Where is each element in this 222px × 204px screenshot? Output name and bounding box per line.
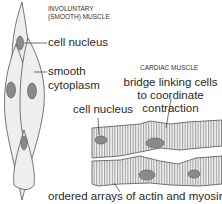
cardiac-nucleus-label: cell nucleus	[73, 104, 133, 116]
bridge-label-line3: contraction	[119, 103, 222, 115]
smooth-muscle-title-line1: INVOLUNTARY	[48, 6, 94, 13]
cardiac-muscle-title: CARDIAC MUSCLE	[140, 65, 198, 72]
smooth-muscle-title-line2: (SMOOTH) MUSCLE	[48, 14, 110, 21]
smooth-cytoplasm-label-line1: smooth	[48, 66, 86, 78]
actin-myosin-label: ordered arrays of actin and myosin	[48, 191, 222, 203]
smooth-nucleus-label: cell nucleus	[48, 37, 108, 49]
bridge-label-line2: to coordinate	[119, 90, 222, 102]
cardiac-muscle-fibers	[92, 120, 222, 186]
smooth-muscle-cells	[4, 2, 44, 200]
smooth-cytoplasm-label-line2: cytoplasm	[48, 80, 100, 92]
bridge-label-line1: bridge linking cells	[119, 77, 222, 89]
